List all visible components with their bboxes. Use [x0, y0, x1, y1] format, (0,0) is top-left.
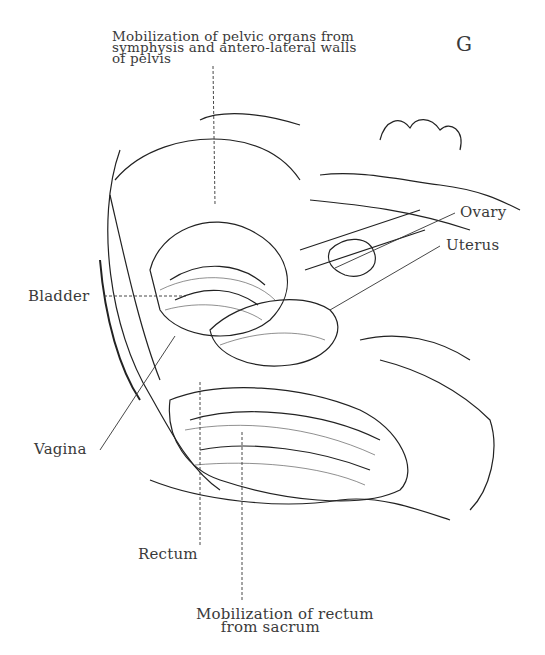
leader-top: [213, 66, 215, 205]
left-wound-edge: [108, 150, 220, 490]
upper-retractor: [115, 139, 300, 180]
rectum-shape: [169, 388, 407, 501]
plate-letter: G: [456, 34, 472, 54]
ovary-shape: [328, 239, 375, 276]
leader-ovary: [335, 213, 455, 268]
uterus-shape: [210, 300, 338, 366]
label-rectum: Rectum: [138, 548, 198, 561]
hand-outline: [380, 120, 461, 150]
label-mobilization-pelvic-organs: Mobilization of pelvic organs from symph…: [112, 31, 357, 64]
label-vagina: Vagina: [34, 443, 87, 456]
label-bladder: Bladder: [28, 290, 89, 303]
leader-vagina: [100, 336, 175, 450]
label-ovary: Ovary: [460, 206, 506, 219]
label-mobilization-rectum: Mobilization of rectum from sacrum: [196, 608, 374, 634]
label-uterus: Uterus: [446, 239, 499, 252]
anatomical-illustration: [0, 0, 545, 655]
